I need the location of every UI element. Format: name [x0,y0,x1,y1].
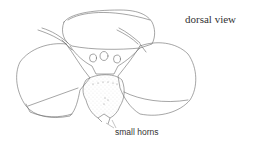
right-antenna [117,30,138,44]
annotation-small-horns: small horns [115,127,158,137]
view-label: dorsal view [185,13,236,25]
right-wing [118,43,196,116]
ocellus-right [114,55,121,63]
pronotum-shield [83,75,124,118]
left-wing [17,44,90,118]
figure-canvas: dorsal view small horns [0,0,253,149]
horn-right [108,118,110,124]
left-antenna-2 [42,28,68,43]
horns-leader-1 [106,123,114,128]
horn-left [98,118,102,122]
ocellus-left [90,54,97,62]
right-antenna-2 [119,28,140,43]
ocellus-center [100,52,108,61]
thorax [70,46,140,74]
